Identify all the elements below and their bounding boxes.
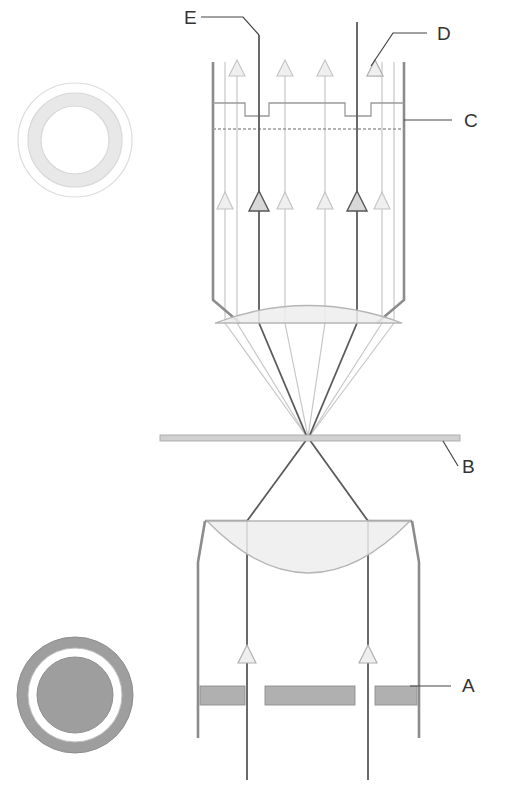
specimen-plane [160, 435, 460, 441]
arrowhead-light-u3 [317, 60, 333, 76]
ring-inset-bottom [17, 637, 133, 753]
aperture-block-right [375, 686, 417, 705]
diffracted-converge-5 [309, 323, 382, 437]
arrowhead-light-d [367, 60, 383, 76]
direct-ray-right-diverge [309, 439, 368, 521]
aperture-block-left [200, 686, 245, 705]
arrowhead-dark-m1 [249, 191, 269, 211]
objective-tube-body [213, 62, 404, 323]
phase-plate [213, 103, 404, 129]
diffracted-ray-bundle [225, 62, 394, 437]
label-E: E [184, 7, 197, 28]
diffracted-converge-6 [309, 323, 394, 437]
arrowhead-light-c1 [238, 645, 256, 663]
label-C: C [464, 110, 478, 131]
annular-aperture-blocks [200, 686, 417, 705]
optical-diagram: A B C D E [0, 0, 519, 792]
label-A: A [462, 675, 475, 696]
leader-E [201, 17, 259, 35]
arrowhead-light-m3 [317, 192, 333, 209]
condenser-wall-left [198, 521, 205, 738]
specimen-plane-bar [160, 435, 460, 441]
direct-ray-bundle [247, 22, 368, 780]
condenser-lens-body [207, 521, 410, 573]
objective-lens-body [215, 306, 402, 324]
tube-wall-left [213, 62, 240, 323]
arrowhead-light-u2 [277, 60, 293, 76]
label-D: D [437, 23, 451, 44]
arrow-row-upper [229, 60, 383, 76]
arrowhead-light-m1 [217, 192, 233, 209]
arrowhead-light-m2 [277, 192, 293, 209]
objective-lens [215, 306, 402, 324]
condenser-wall-right [412, 521, 419, 738]
arrowhead-light-m4 [374, 192, 390, 209]
phase-plate-profile [213, 103, 404, 116]
arrowhead-light-c2 [359, 645, 377, 663]
leader-B [443, 441, 458, 466]
arrow-diffracted-d [367, 60, 383, 76]
tube-wall-right [377, 62, 404, 323]
arrow-row-middle-dark [249, 191, 367, 211]
arrow-row-condenser [238, 645, 377, 663]
diagram-canvas: A B C D E [0, 0, 519, 792]
arrowhead-light-u1 [229, 60, 245, 76]
direct-ray-left-diverge [247, 439, 307, 521]
aperture-block-center [265, 686, 355, 705]
condenser-lens [207, 521, 410, 573]
ring-inset-top [18, 83, 132, 197]
arrowhead-dark-m2 [347, 191, 367, 211]
label-B: B [462, 456, 475, 477]
leader-D [371, 33, 427, 66]
